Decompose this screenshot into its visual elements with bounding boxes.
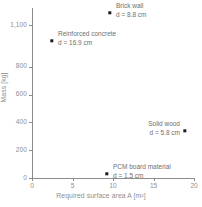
y-tick-label: 0 [23, 175, 27, 182]
x-tick-label: 10 [109, 183, 116, 190]
scatter-chart: 02004006008001,100 05101520 Required sur… [0, 0, 202, 207]
data-point-thickness: d = 5.8 cm [148, 129, 180, 138]
y-tick-label: 1,100 [10, 22, 27, 29]
y-tick-label: 600 [16, 91, 27, 98]
data-point-thickness: d = 1.5 cm [113, 172, 171, 181]
x-tick-label: 5 [71, 183, 75, 190]
data-point-marker [105, 172, 108, 175]
x-tick-label: 15 [150, 183, 157, 190]
x-tick-label: 20 [190, 183, 197, 190]
data-point-marker [108, 11, 111, 14]
data-point-label: PCM board materiald = 1.5 cm [113, 163, 171, 181]
x-tick-label: 0 [30, 183, 34, 190]
data-point-name: PCM board material [113, 163, 171, 172]
x-tick-mark [194, 178, 195, 181]
y-tick-label: 200 [16, 147, 27, 154]
x-axis-title: Required surface area A [m²] [0, 193, 202, 200]
data-point-thickness: d = 8.8 cm [116, 11, 147, 20]
y-axis-title: Mass [kg] [1, 57, 8, 117]
data-point-name: Reinforced concrete [58, 30, 116, 39]
data-point-name: Solid wood [148, 120, 180, 129]
x-tick-mark [32, 178, 33, 181]
data-point-marker [50, 39, 53, 42]
data-point-label: Solid woodd = 5.8 cm [148, 120, 180, 138]
y-tick-label: 400 [16, 119, 27, 126]
data-point-marker [183, 129, 186, 132]
data-point-label: Brick walld = 8.8 cm [116, 2, 147, 20]
x-tick-mark [73, 178, 74, 181]
data-point-thickness: d = 16.9 cm [58, 39, 116, 48]
data-point-label: Reinforced concreted = 16.9 cm [58, 30, 116, 48]
y-tick-label: 800 [16, 63, 27, 70]
data-point-name: Brick wall [116, 2, 147, 11]
